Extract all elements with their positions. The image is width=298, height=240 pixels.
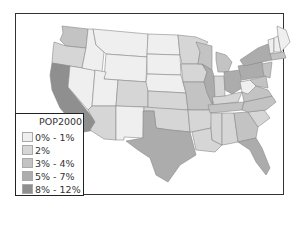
legend-title: POP2000 as <box>39 116 84 127</box>
legend-item: 5% - 7% <box>22 170 75 182</box>
state-co[interactable] <box>116 80 148 107</box>
state-nm[interactable] <box>116 106 144 140</box>
state-fl[interactable] <box>238 138 270 175</box>
state-in[interactable] <box>214 76 225 98</box>
state-nd[interactable] <box>147 34 180 55</box>
legend-swatch <box>22 184 33 194</box>
legend-label: 5% - 7% <box>35 171 75 182</box>
legend-label: 3% - 4% <box>35 158 75 169</box>
map-legend: POP2000 as 0% - 1% 2% 3% - 4% 5% - 7% 8%… <box>15 113 84 196</box>
state-sd[interactable] <box>147 54 181 75</box>
legend-label: 8% - 12% <box>35 184 81 195</box>
legend-swatch <box>22 171 33 181</box>
legend-item: 2% <box>22 144 50 156</box>
state-ma[interactable] <box>270 52 286 60</box>
legend-swatch <box>22 158 33 168</box>
state-ne[interactable] <box>146 74 186 93</box>
state-ks[interactable] <box>148 91 188 110</box>
legend-item: 3% - 4% <box>22 157 75 169</box>
legend-swatch <box>22 145 33 155</box>
state-oh[interactable] <box>224 70 242 94</box>
legend-item: 8% - 12% <box>22 183 81 195</box>
state-wy[interactable] <box>104 54 147 82</box>
state-ms[interactable] <box>211 113 222 145</box>
legend-label: 0% - 1% <box>35 132 75 143</box>
legend-swatch <box>22 132 33 142</box>
state-ia[interactable] <box>181 64 207 82</box>
state-mi[interactable] <box>216 52 232 72</box>
legend-item: 0% - 1% <box>22 131 75 143</box>
legend-label: 2% <box>35 145 50 156</box>
state-wa[interactable] <box>60 26 88 48</box>
